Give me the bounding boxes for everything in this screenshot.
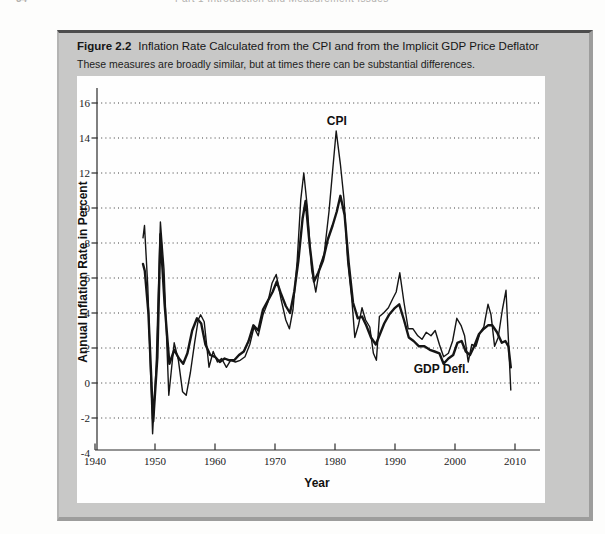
x-tick-label: 1940: [84, 455, 107, 467]
y-tick-label: 16: [79, 97, 91, 109]
y-tick-label: 12: [79, 167, 90, 179]
figure-number-label: Figure 2.2: [77, 40, 131, 52]
x-tick-label: 1960: [204, 455, 227, 467]
running-title: Part 1 Introduction and Measurement Issu…: [175, 0, 389, 4]
y-axis-title: Annual Inflation Rate in Percent: [77, 181, 90, 362]
y-tick-label: -2: [81, 412, 90, 424]
cpi-line: [143, 131, 511, 434]
figure-caption: These measures are broadly similar, but …: [77, 58, 582, 70]
x-tick-label: 1980: [324, 455, 347, 467]
y-tick-label: 0: [85, 377, 91, 389]
x-tick-label: 1950: [144, 455, 167, 467]
y-tick-label: 14: [79, 132, 91, 144]
cpi-label: CPI: [327, 114, 347, 128]
x-tick-label: 2010: [504, 455, 527, 467]
page-running-header: 34 Part 1 Introduction and Measurement I…: [0, 0, 605, 5]
figure-title: Figure 2.2Inflation Rate Calculated from…: [77, 40, 582, 52]
inflation-chart: -4-2024681012141619401950196019701980199…: [77, 76, 545, 503]
figure-title-text: Inflation Rate Calculated from the CPI a…: [138, 40, 539, 52]
x-axis-title: Year: [304, 476, 330, 490]
page-number: 34: [16, 0, 27, 4]
x-tick-label: 1970: [264, 455, 287, 467]
figure-panel: Figure 2.2Inflation Rate Calculated from…: [57, 30, 593, 521]
plot-area: -4-2024681012141619401950196019701980199…: [77, 76, 545, 503]
x-tick-label: 1990: [384, 455, 407, 467]
gdp-deflator-label: GDP Defl.: [414, 362, 469, 376]
x-tick-label: 2000: [444, 455, 467, 467]
